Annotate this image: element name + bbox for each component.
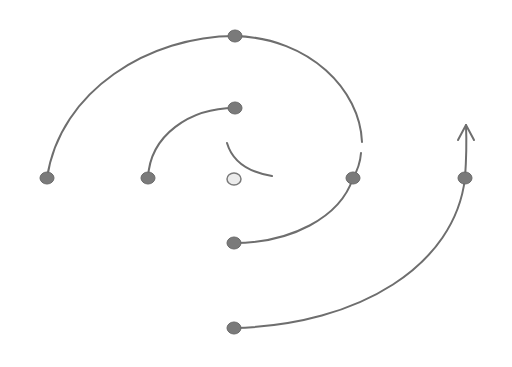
spiral-svg <box>0 0 512 367</box>
outer-arc-right <box>235 36 362 142</box>
center-node <box>227 173 241 185</box>
outermost-arc <box>234 178 465 328</box>
right-mid-node <box>346 172 360 184</box>
outer-left-node <box>40 172 54 184</box>
center-arc <box>227 143 272 176</box>
inner-left-node <box>141 172 155 184</box>
far-right-node <box>458 172 472 184</box>
inner-top-node <box>228 102 242 114</box>
spiral-diagram <box>0 0 512 367</box>
middle-arc <box>234 178 353 243</box>
inner-arc <box>148 108 235 178</box>
arrow-shaft <box>465 125 466 178</box>
outer-arc-left <box>47 36 235 178</box>
bottom-outer-node <box>227 322 241 334</box>
outer-top-node <box>228 30 242 42</box>
bottom-mid-node <box>227 237 241 249</box>
